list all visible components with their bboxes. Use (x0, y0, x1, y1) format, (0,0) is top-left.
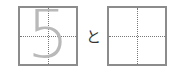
trace-box: 5 (18, 6, 78, 66)
answer-box[interactable] (107, 6, 167, 66)
vertical-guide-line (137, 8, 138, 64)
trace-character: 5 (20, 0, 76, 71)
connector-text: と (86, 25, 101, 46)
